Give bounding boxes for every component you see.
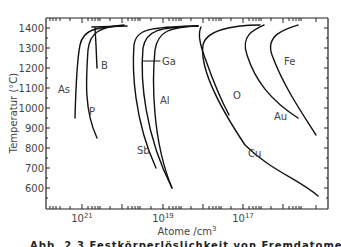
x-tick-labels: 1021 1019 1017 (71, 212, 254, 224)
curve-au (245, 25, 298, 118)
x-tick-1e17: 1017 (232, 212, 254, 224)
x-tick-1e19: 1019 (152, 212, 174, 224)
label-al: Al (160, 95, 170, 106)
chart: 1400 1300 1200 1100 1000 900 800 700 600… (0, 0, 341, 247)
label-ga: Ga (162, 56, 176, 67)
y-tick-1200: 1200 (19, 63, 44, 74)
y-tick-900: 900 (25, 123, 44, 134)
curve-as (75, 26, 122, 118)
curve-p (87, 25, 124, 138)
curve-b-top (92, 26, 127, 27)
label-as: As (58, 84, 70, 95)
y-tick-700: 700 (25, 163, 44, 174)
label-b: B (101, 60, 108, 71)
label-o: O (233, 90, 241, 101)
y-tick-1400: 1400 (19, 23, 44, 34)
label-sb: Sb (137, 145, 150, 156)
curve-b (95, 28, 97, 68)
x-axis-label: Atome /cm3 (158, 225, 217, 237)
label-cu: Cu (248, 148, 261, 159)
y-tick-1000: 1000 (19, 103, 44, 114)
y-tick-labels: 1400 1300 1200 1100 1000 900 800 700 600 (19, 23, 44, 194)
figure-caption: Abb. 2.3 Festkörperlöslichkeit von Fremd… (30, 240, 341, 247)
y-axis-label: Temperatur (°C) (8, 73, 19, 154)
label-au: Au (274, 111, 287, 122)
y-tick-1300: 1300 (19, 43, 44, 54)
curve-al (154, 26, 198, 188)
y-tick-1100: 1100 (19, 83, 44, 94)
label-p: P (89, 106, 95, 117)
label-fe: Fe (284, 56, 295, 67)
y-tick-800: 800 (25, 143, 44, 154)
y-tick-600: 600 (25, 183, 44, 194)
x-tick-1e21: 1021 (71, 212, 93, 224)
curve-o (200, 27, 229, 115)
curve-ga (142, 26, 198, 188)
curve-labels: As P B Sb Ga Al O Cu Au Fe (58, 56, 295, 159)
